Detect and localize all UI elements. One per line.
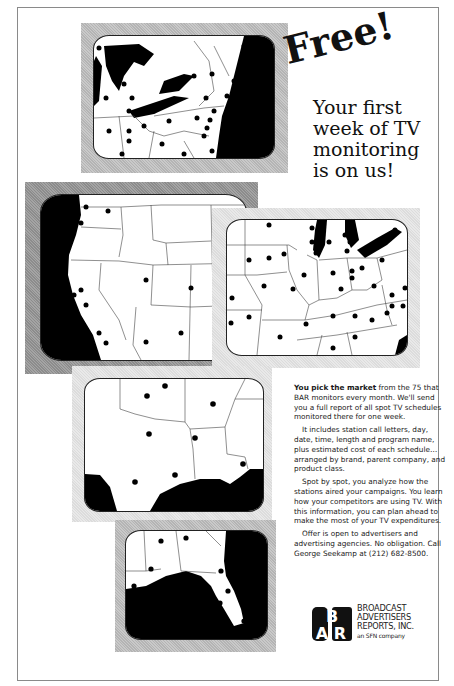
south-central-map-graphic: [85, 379, 263, 511]
body-copy: You pick the market from the 75 that BAR…: [294, 383, 446, 562]
midwest-map-graphic: [227, 220, 407, 355]
lead-in: You pick the market: [294, 383, 376, 392]
svg-text:R: R: [334, 624, 346, 643]
headline-line: monitoring: [313, 139, 420, 160]
tv-map-northeast: [81, 23, 288, 173]
tv-map-midwest: [212, 208, 420, 368]
headline-line: is on us!: [313, 160, 420, 181]
company-name: BROADCAST ADVERTISERS REPORTS, INC. an S…: [357, 604, 414, 640]
tv-map-southeast: [115, 520, 276, 652]
offer-headline: Your first week of TV monitoring is on u…: [313, 97, 420, 181]
company-name-line: REPORTS, INC.: [357, 622, 414, 631]
tv-map-south-central: [72, 366, 272, 522]
map-screen-midwest: [226, 219, 408, 356]
map-screen-south-central: [84, 378, 264, 512]
svg-text:A: A: [316, 624, 329, 643]
headline-line: Your first: [313, 97, 420, 118]
map-screen-northeast: [93, 35, 275, 159]
map-screen-southeast: [125, 530, 268, 640]
headline-line: week of TV: [313, 118, 420, 139]
paragraph-offer: Offer is open to advertisers and adverti…: [294, 529, 446, 558]
northeast-map-graphic: [94, 36, 274, 158]
southeast-map-graphic: [126, 531, 267, 639]
bar-logo-icon: B A R: [312, 604, 352, 644]
paragraph-market: You pick the market from the 75 that BAR…: [294, 383, 446, 422]
company-tagline: an SFN company: [357, 631, 414, 640]
paragraph-analyze: Spot by spot, you analyze how the statio…: [294, 477, 446, 526]
paragraph-includes: It includes station call letters, day, d…: [294, 425, 446, 474]
